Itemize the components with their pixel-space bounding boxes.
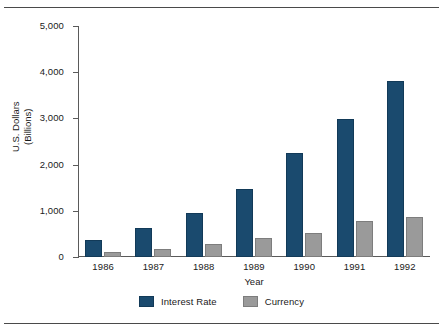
bar-group-1986 [85, 26, 121, 257]
x-tick-label-1986: 1986 [83, 261, 123, 272]
bar-interest-rate-1987 [135, 228, 152, 257]
y-axis-title-line2: (Billions) [22, 93, 34, 161]
y-tick-label-4000: 4,000 [40, 66, 64, 77]
bar-interest-rate-1991 [337, 119, 354, 257]
x-tick-label-1990: 1990 [284, 261, 324, 272]
bar-group-1988 [186, 26, 222, 257]
x-tick-label-1989: 1989 [234, 261, 274, 272]
legend-label: Interest Rate [161, 296, 217, 307]
x-tick-label-1992: 1992 [385, 261, 425, 272]
x-tick-label-1991: 1991 [335, 261, 375, 272]
x-axis-tick-labels: 1986198719881989199019911992 [78, 261, 430, 272]
bar-interest-rate-1986 [85, 240, 102, 257]
bar-group-1989 [236, 26, 272, 257]
legend-item-interest-rate: Interest Rate [139, 296, 217, 307]
y-tick-0: 0 [73, 257, 79, 258]
chart-legend: Interest RateCurrency [0, 296, 443, 307]
bar-currency-1990 [305, 233, 322, 257]
bar-group-1987 [135, 26, 171, 257]
bar-interest-rate-1990 [286, 153, 303, 257]
y-tick-label-5000: 5,000 [40, 20, 64, 31]
legend-label: Currency [265, 296, 304, 307]
y-tick-label-3000: 3,000 [40, 112, 64, 123]
bar-groups [78, 26, 430, 257]
x-tick-label-1987: 1987 [133, 261, 173, 272]
legend-swatch-icon-interest-rate [139, 296, 154, 307]
top-divider-rule [4, 7, 439, 8]
y-tick-label-0: 0 [59, 251, 64, 262]
bar-currency-1988 [205, 244, 222, 257]
bar-currency-1991 [356, 221, 373, 257]
legend-swatch-icon-currency [243, 296, 258, 307]
bar-currency-1989 [255, 238, 272, 257]
x-tick-label-1988: 1988 [184, 261, 224, 272]
x-axis-title: Year [78, 276, 430, 287]
bar-group-1992 [387, 26, 423, 257]
bar-interest-rate-1989 [236, 189, 253, 257]
legend-item-currency: Currency [243, 296, 304, 307]
bar-currency-1986 [104, 252, 121, 257]
bar-group-1990 [286, 26, 322, 257]
y-axis-title-line1: U.S. Dollars [10, 93, 22, 161]
y-tick-label-1000: 1,000 [40, 205, 64, 216]
bar-interest-rate-1988 [186, 213, 203, 257]
bar-currency-1992 [406, 217, 423, 257]
chart-figure: U.S. Dollars (Billions) 5,000 4,000 3,00… [0, 0, 443, 334]
bar-group-1991 [337, 26, 373, 257]
bar-currency-1987 [154, 249, 171, 257]
bar-interest-rate-1992 [387, 81, 404, 257]
y-tick-label-2000: 2,000 [40, 159, 64, 170]
bottom-divider-rule [4, 323, 439, 324]
